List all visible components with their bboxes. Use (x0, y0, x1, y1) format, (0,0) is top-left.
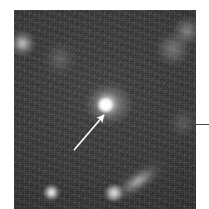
sky-noise-coarse-texture (14, 10, 196, 209)
scale-bar-tick (196, 124, 209, 125)
figure-root (0, 0, 209, 209)
sky-image-panel[interactable] (14, 10, 196, 209)
